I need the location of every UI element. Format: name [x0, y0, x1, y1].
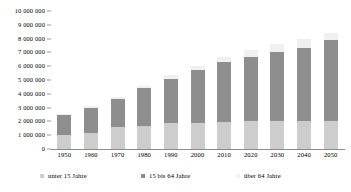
bar-segment-ueber-64[interactable] — [297, 39, 311, 48]
bar-segment-ueber-64[interactable] — [137, 86, 151, 89]
x-axis-tick-label: 2020 — [244, 152, 258, 159]
bar-group[interactable] — [297, 11, 311, 149]
bar-segment-unter-15[interactable] — [137, 126, 151, 149]
x-axis-tick-label: 2030 — [271, 152, 285, 159]
x-axis-tick-label: 2040 — [297, 152, 311, 159]
bar-segment-ueber-64[interactable] — [270, 44, 284, 52]
bar-segment-unter-15[interactable] — [191, 123, 205, 149]
y-axis-tick-label: 9 000 000 — [18, 22, 45, 28]
bar-segment-15-bis-64[interactable] — [84, 108, 98, 134]
legend-item[interactable]: 15 bis 64 Jahre — [141, 173, 190, 180]
bar-group[interactable] — [244, 11, 258, 149]
y-axis-tick-label: 3 000 000 — [18, 104, 45, 110]
bar-group[interactable] — [84, 11, 98, 149]
bar-segment-15-bis-64[interactable] — [270, 52, 284, 121]
x-axis-tick-label: 2010 — [217, 152, 231, 159]
bar-group[interactable] — [217, 11, 231, 149]
y-axis-tick-label: 6 000 000 — [18, 63, 45, 69]
y-axis-tick-label: 2 000 000 — [18, 118, 45, 124]
x-axis-tick-label: 1950 — [58, 152, 72, 159]
y-axis-tick-label: 10 000 000 — [15, 8, 45, 14]
bar-segment-15-bis-64[interactable] — [57, 115, 71, 135]
legend-swatch-icon — [236, 174, 240, 178]
bar-segment-ueber-64[interactable] — [111, 97, 125, 99]
bar-segment-unter-15[interactable] — [217, 122, 231, 149]
bar-segment-unter-15[interactable] — [270, 121, 284, 149]
legend-swatch-icon — [141, 174, 145, 178]
bar-group[interactable] — [270, 11, 284, 149]
bar-segment-ueber-64[interactable] — [164, 75, 178, 78]
bar-segment-ueber-64[interactable] — [244, 50, 258, 57]
y-axis: 01 000 0002 000 0003 000 0004 000 0005 0… — [0, 0, 51, 160]
bar-segment-ueber-64[interactable] — [84, 106, 98, 108]
bar-group[interactable] — [137, 11, 151, 149]
x-axis-tick-label: 1970 — [111, 152, 125, 159]
legend-label: unter 15 Jahre — [48, 173, 87, 180]
legend-label: 15 bis 64 Jahre — [149, 173, 190, 180]
legend-item[interactable]: unter 15 Jahre — [40, 173, 87, 180]
x-axis-tick-label: 2050 — [324, 152, 338, 159]
x-axis-tick-label: 1990 — [164, 152, 178, 159]
x-axis: 1950196019701980199020002010202020302040… — [51, 152, 344, 164]
bar-segment-15-bis-64[interactable] — [297, 48, 311, 121]
bar-segment-ueber-64[interactable] — [217, 57, 231, 63]
legend-item[interactable]: über 64 Jahre — [236, 173, 281, 180]
x-axis-tick-label: 1980 — [137, 152, 151, 159]
bar-group[interactable] — [324, 11, 338, 149]
bar-segment-15-bis-64[interactable] — [244, 57, 258, 122]
bar-segment-15-bis-64[interactable] — [137, 88, 151, 125]
chart-legend: unter 15 Jahre15 bis 64 Jahreüber 64 Jah… — [0, 171, 351, 185]
plot-area — [51, 11, 344, 149]
bar-segment-unter-15[interactable] — [297, 121, 311, 149]
legend-label: über 64 Jahre — [244, 173, 281, 180]
y-axis-tick-label: 5 000 000 — [18, 77, 45, 83]
bar-group[interactable] — [164, 11, 178, 149]
y-axis-tick-label: 4 000 000 — [18, 91, 45, 97]
y-axis-tick-label: 7 000 000 — [18, 49, 45, 55]
bar-segment-unter-15[interactable] — [324, 121, 338, 149]
bar-group[interactable] — [191, 11, 205, 149]
stacked-bar-chart: 01 000 0002 000 0003 000 0004 000 0005 0… — [0, 0, 351, 192]
bar-segment-15-bis-64[interactable] — [164, 79, 178, 123]
bar-group[interactable] — [111, 11, 125, 149]
bar-segment-unter-15[interactable] — [84, 133, 98, 149]
bar-segment-unter-15[interactable] — [111, 127, 125, 149]
y-axis-tick-label: 0 — [42, 146, 45, 152]
bar-segment-15-bis-64[interactable] — [217, 62, 231, 122]
x-axis-tick-label: 1960 — [84, 152, 98, 159]
bar-segment-unter-15[interactable] — [164, 123, 178, 149]
legend-swatch-icon — [40, 174, 44, 178]
bar-segment-unter-15[interactable] — [57, 135, 71, 149]
x-axis-line — [51, 149, 345, 150]
bar-segment-15-bis-64[interactable] — [324, 40, 338, 121]
bar-group[interactable] — [57, 11, 71, 149]
bar-segment-ueber-64[interactable] — [191, 66, 205, 70]
bar-segment-unter-15[interactable] — [244, 121, 258, 149]
bar-segment-ueber-64[interactable] — [324, 33, 338, 40]
y-axis-tick-label: 1 000 000 — [18, 132, 45, 138]
bar-segment-ueber-64[interactable] — [57, 114, 71, 116]
bar-segment-15-bis-64[interactable] — [191, 70, 205, 122]
x-axis-tick-label: 2000 — [191, 152, 205, 159]
bar-segment-15-bis-64[interactable] — [111, 99, 125, 127]
y-axis-tick-label: 8 000 000 — [18, 35, 45, 41]
